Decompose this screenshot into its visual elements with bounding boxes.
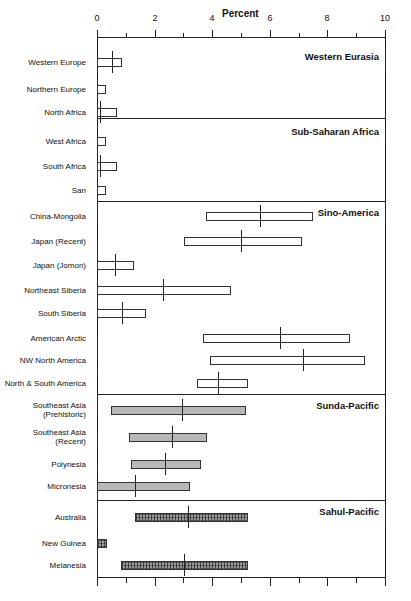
range-bar-north-south-america [197, 379, 248, 388]
x-tick-major [97, 30, 98, 38]
category-label-north-south-america: North & South America [0, 379, 90, 388]
mean-marker [100, 155, 101, 177]
x-tick-minor-bottom [356, 577, 357, 583]
panel-divider [97, 201, 386, 202]
x-tick-label: 2 [145, 13, 165, 23]
x-tick-major [212, 30, 213, 38]
category-label-southeast-asia-prehistoric-: Southeast Asia(Prehistoric) [0, 401, 90, 419]
x-tick-major [270, 30, 271, 38]
mean-marker [165, 453, 166, 475]
x-tick-minor [356, 33, 357, 38]
x-tick-minor-bottom [241, 577, 242, 583]
mean-marker [303, 349, 304, 371]
range-bar-new-guinea [97, 539, 107, 548]
mean-marker [163, 279, 164, 301]
x-tick-major-bottom [270, 577, 271, 586]
range-bar-american-arctic [203, 334, 350, 343]
x-tick-minor [126, 33, 127, 38]
category-label-south-africa: South Africa [0, 162, 90, 171]
x-tick-major-bottom [327, 577, 328, 586]
x-tick-label: 8 [317, 13, 337, 23]
category-label-west-africa: West Africa [0, 137, 90, 146]
category-label-japan-recent-: Japan (Recent) [0, 237, 90, 246]
mean-marker [135, 475, 136, 497]
range-bar-nw-north-america [210, 356, 365, 365]
category-label-northeast-siberia: Northeast Siberia [0, 286, 90, 295]
x-tick-minor [299, 33, 300, 38]
mean-marker [122, 302, 123, 324]
range-bar-southeast-asia-recent- [129, 433, 207, 442]
mean-marker [218, 372, 219, 394]
x-tick-label: 6 [260, 13, 280, 23]
range-bar-northern-europe [97, 85, 106, 94]
x-tick-major [327, 30, 328, 38]
panel-title-sub-saharan-africa: Sub-Saharan Africa [259, 126, 379, 137]
range-bar-southeast-asia-prehistoric- [111, 406, 246, 415]
mean-marker [188, 506, 189, 528]
x-tick-major-bottom [155, 577, 156, 586]
panel-divider [97, 500, 386, 501]
x-tick-label: 10 [375, 13, 395, 23]
x-tick-minor [183, 33, 184, 38]
mean-marker [112, 51, 113, 73]
category-label-south-siberia: South Siberia [0, 309, 90, 318]
x-tick-label: 4 [202, 13, 222, 23]
x-tick-major-bottom [212, 577, 213, 586]
panel-title-sunda-pacific: Sunda-Pacific [259, 400, 379, 411]
category-label-american-arctic: American Arctic [0, 334, 90, 343]
mean-marker [280, 327, 281, 349]
x-tick-minor-bottom [299, 577, 300, 583]
panel-title-sahul-pacific: Sahul-Pacific [259, 506, 379, 517]
category-label-australia: Australia [0, 513, 90, 522]
category-label-northern-europe: Northern Europe [0, 85, 90, 94]
mean-marker [260, 205, 261, 227]
category-label-nw-north-america: NW North America [0, 356, 90, 365]
mean-marker [172, 426, 173, 448]
category-label-china-mongolia: China-Mongolia [0, 212, 90, 221]
x-tick-minor-bottom [183, 577, 184, 583]
range-bar-western-europe [97, 58, 122, 67]
range-bar-san [97, 186, 106, 195]
range-bar-northeast-siberia [97, 286, 231, 295]
axis-title-percent: Percent [222, 8, 259, 19]
mean-marker [184, 554, 185, 576]
category-label-new-guinea: New Guinea [0, 539, 90, 548]
x-tick-label: 0 [87, 13, 107, 23]
range-bar-west-africa [97, 137, 106, 146]
category-label-polynesia: Polynesia [0, 460, 90, 469]
range-bar-chart: Percent0246810Western EurasiaSub-Saharan… [0, 0, 411, 601]
range-bar-polynesia [131, 460, 201, 469]
x-tick-minor-bottom [126, 577, 127, 583]
category-label-southeast-asia-recent-: Southeast Asia(Recent) [0, 428, 90, 446]
category-label-san: San [0, 186, 90, 195]
category-label-western-europe: Western Europe [0, 58, 90, 67]
panel-divider [97, 118, 386, 119]
panel-divider [97, 394, 386, 395]
x-tick-minor [241, 33, 242, 38]
x-tick-major-bottom [97, 577, 98, 586]
range-bar-micronesia [97, 482, 190, 491]
mean-marker [115, 254, 116, 276]
mean-marker [100, 101, 101, 123]
category-label-micronesia: Micronesia [0, 482, 90, 491]
x-tick-major [155, 30, 156, 38]
range-bar-japan-recent- [184, 237, 302, 246]
panel-title-western-eurasia: Western Eurasia [259, 51, 379, 62]
x-tick-major [385, 30, 386, 38]
mean-marker [182, 399, 183, 421]
x-tick-major-bottom [385, 577, 386, 586]
category-label-melanesia: Melanesia [0, 561, 90, 570]
range-bar-australia [135, 513, 248, 522]
category-label-north-africa: North Africa [0, 108, 90, 117]
category-label-japan-jomon-: Japan (Jomon) [0, 261, 90, 270]
mean-marker [241, 230, 242, 252]
